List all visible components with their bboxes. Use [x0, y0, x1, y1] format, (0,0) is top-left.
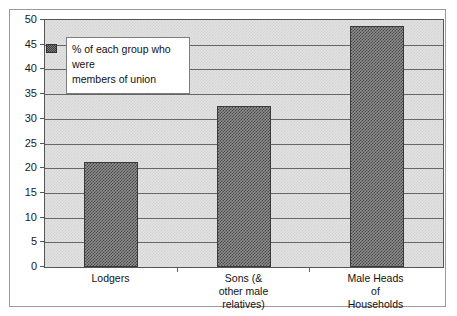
- bar: [350, 26, 404, 267]
- bar: [84, 162, 138, 267]
- legend-label-line1: % of each group who were: [72, 42, 184, 72]
- bar: [217, 106, 271, 267]
- y-axis-tick-label: 25: [25, 137, 37, 149]
- x-axis-tick-label-line: Sons (&: [177, 272, 310, 285]
- y-axis-tick-label: 5: [31, 235, 37, 247]
- x-axis-tick-label: Sons (&other malerelatives): [177, 272, 310, 311]
- chart-frame: 05101520253035404550 % of each group who…: [9, 9, 446, 307]
- y-axis: 05101520253035404550: [10, 19, 44, 268]
- y-axis-tick-label: 45: [25, 38, 37, 50]
- y-axis-tick-label: 50: [25, 13, 37, 25]
- chart-legend: % of each group who were members of unio…: [66, 37, 190, 94]
- y-axis-tick-label: 40: [25, 62, 37, 74]
- clipped-top-text: [0, 0, 457, 3]
- x-axis-tick-label-line: relatives): [177, 298, 310, 311]
- y-axis-tick-label: 35: [25, 87, 37, 99]
- x-axis-tick-label-line: Male Heads: [309, 272, 442, 285]
- series-color-swatch-icon: [46, 44, 57, 53]
- x-axis-tick-label: Male HeadsofHouseholds: [309, 272, 442, 311]
- y-axis-tick-label: 10: [25, 211, 37, 223]
- y-axis-tick-label: 0: [31, 260, 37, 272]
- x-axis-tick-label-line: Households: [309, 298, 442, 311]
- x-axis-tick-label-line: of: [309, 285, 442, 298]
- y-axis-tick-label: 30: [25, 112, 37, 124]
- legend-label-line2: members of union: [72, 72, 184, 87]
- x-axis-tick-label: Lodgers: [44, 272, 177, 285]
- y-axis-tick-label: 20: [25, 161, 37, 173]
- x-axis-tick-label-line: other male: [177, 285, 310, 298]
- x-axis-tick-label-line: Lodgers: [44, 272, 177, 285]
- y-axis-tick-label: 15: [25, 186, 37, 198]
- x-axis: LodgersSons (&other malerelatives)Male H…: [44, 270, 444, 316]
